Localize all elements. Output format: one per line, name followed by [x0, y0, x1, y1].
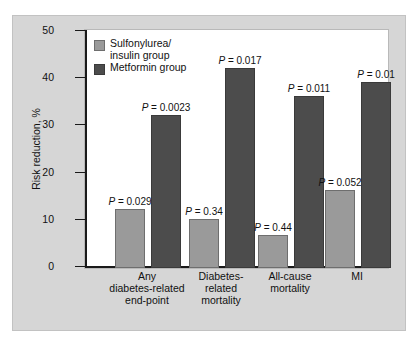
- legend-swatch-icon: [94, 64, 105, 75]
- y-tick-label: 40: [42, 71, 54, 83]
- y-tick-mark: [75, 172, 85, 173]
- p-value-label: P = 0.017: [218, 55, 261, 66]
- p-value-label: P = 0.34: [185, 206, 223, 217]
- y-tick-mark: [75, 124, 85, 125]
- y-tick-label: 10: [42, 213, 54, 225]
- legend-item[interactable]: Metformin group: [94, 62, 186, 75]
- bar-metformin[interactable]: P = 0.01: [361, 82, 391, 268]
- p-value-label: P = 0.029: [108, 196, 151, 207]
- legend-swatch-icon: [94, 40, 105, 51]
- y-axis-line: [85, 30, 87, 268]
- y-tick-label: 50: [42, 24, 54, 36]
- y-tick-label: 20: [42, 166, 54, 178]
- y-axis-title: Risk reduction, %: [30, 108, 42, 190]
- x-axis-label: MI: [302, 270, 412, 282]
- legend-label: Sulfonylurea/ insulin group: [110, 38, 171, 61]
- y-tick-mark: [75, 77, 85, 78]
- y-tick-mark: [75, 30, 85, 31]
- bar-metformin[interactable]: P = 0.0023: [151, 115, 181, 268]
- y-tick-mark: [75, 266, 85, 267]
- chart-legend: Sulfonylurea/ insulin groupMetformin gro…: [94, 38, 186, 76]
- bar-metformin[interactable]: P = 0.017: [225, 68, 255, 268]
- y-tick-label: 30: [42, 118, 54, 130]
- p-value-label: P = 0.01: [357, 69, 395, 80]
- legend-item[interactable]: Sulfonylurea/ insulin group: [94, 38, 186, 61]
- p-value-label: P = 0.011: [288, 83, 330, 94]
- figure-panel: Risk reduction, % 01020304050 P = 0.029P…: [13, 16, 405, 330]
- bar-sulfonylurea[interactable]: P = 0.052: [325, 190, 355, 268]
- p-value-label: P = 0.052: [318, 177, 361, 188]
- bar-sulfonylurea[interactable]: P = 0.34: [189, 219, 219, 268]
- bar-sulfonylurea[interactable]: P = 0.029: [115, 209, 145, 268]
- y-tick-mark: [75, 219, 85, 220]
- y-tick-label: 0: [48, 260, 54, 272]
- bar-sulfonylurea[interactable]: P = 0.44: [258, 235, 288, 268]
- p-value-label: P = 0.0023: [142, 102, 191, 113]
- plot-frame: Risk reduction, % 01020304050 P = 0.029P…: [58, 30, 388, 268]
- legend-label: Metformin group: [110, 62, 186, 74]
- p-value-label: P = 0.44: [254, 222, 292, 233]
